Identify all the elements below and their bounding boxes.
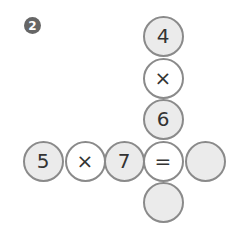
cell-equals: = — [143, 141, 184, 182]
cell-vertical-6: 6 — [143, 99, 184, 140]
cell-horizontal-multiply: × — [65, 141, 106, 182]
cell-horizontal-5: 5 — [23, 141, 64, 182]
answer-vertical[interactable] — [143, 182, 184, 223]
cell-vertical-multiply: × — [143, 58, 184, 99]
answer-horizontal[interactable] — [185, 141, 226, 182]
problem-number-badge: 2 — [24, 17, 41, 34]
cell-vertical-4: 4 — [143, 16, 184, 57]
cell-horizontal-7: 7 — [104, 141, 145, 182]
